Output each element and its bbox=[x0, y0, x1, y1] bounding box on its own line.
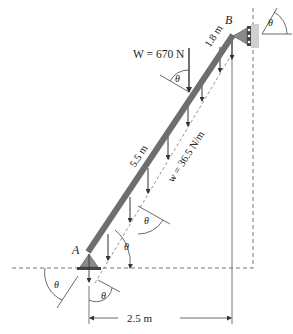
pin-support-a bbox=[77, 254, 101, 282]
beam-diagram: A B W = 670 N 1.8 m 5.5 m w = 36.5 N/m 2… bbox=[0, 0, 293, 334]
angle-label-mid: θ bbox=[144, 215, 149, 226]
angle-label-bottom: θ bbox=[101, 290, 106, 301]
load-envelope-line bbox=[95, 52, 233, 283]
angle-label-weight: θ bbox=[175, 73, 180, 84]
weight-label: W = 670 N bbox=[133, 48, 185, 60]
roller-support-b bbox=[233, 24, 259, 48]
angle-label-top-right: θ bbox=[268, 17, 273, 28]
point-b-label: B bbox=[225, 13, 233, 27]
upper-segment-length: 1.8 m bbox=[202, 23, 224, 49]
point-a-label: A bbox=[71, 243, 80, 257]
span-length: 2.5 m bbox=[127, 312, 153, 324]
angle-label-bottom-left: θ bbox=[54, 279, 59, 290]
distributed-load-label: w = 36.5 N/m bbox=[165, 129, 206, 184]
beam bbox=[88, 35, 233, 252]
angle-label-a: θ bbox=[124, 241, 129, 252]
